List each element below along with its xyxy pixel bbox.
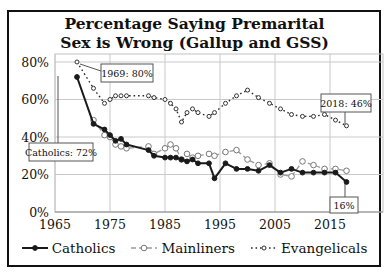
marker-mainliners xyxy=(212,153,218,159)
marker-evangelicals xyxy=(290,113,294,117)
legend: CatholicsMainlinersEvangelicals xyxy=(0,240,389,256)
marker-catholics xyxy=(234,167,239,172)
marker-catholics xyxy=(196,161,201,166)
marker-mainliners xyxy=(234,147,240,153)
marker-catholics xyxy=(91,122,96,127)
marker-mainliners xyxy=(344,168,350,174)
legend-item-evangelicals: Evangelicals xyxy=(251,240,367,256)
annotation-label: Catholics: 72% xyxy=(25,147,97,158)
marker-mainliners xyxy=(256,162,262,168)
marker-evangelicals xyxy=(75,60,79,64)
marker-catholics xyxy=(75,75,80,80)
marker-evangelicals xyxy=(152,96,156,100)
marker-mainliners xyxy=(102,132,108,138)
marker-mainliners xyxy=(311,162,317,168)
marker-catholics xyxy=(256,168,261,173)
marker-catholics xyxy=(212,176,217,181)
marker-mainliners xyxy=(223,149,229,155)
marker-evangelicals xyxy=(119,94,123,98)
marker-catholics xyxy=(267,163,272,168)
marker-catholics xyxy=(207,161,212,166)
marker-catholics xyxy=(102,127,107,132)
annotation-leader-line xyxy=(80,64,101,71)
x-tick-label: 1995 xyxy=(204,217,236,232)
marker-catholics xyxy=(174,155,179,160)
marker-mainliners xyxy=(168,142,174,148)
x-tick-label: 2015 xyxy=(314,217,346,232)
marker-mainliners xyxy=(195,153,201,159)
legend-line-sample-mainliners xyxy=(131,242,157,254)
marker-catholics xyxy=(223,161,228,166)
marker-catholics xyxy=(179,157,184,162)
legend-sample-marker xyxy=(142,245,148,251)
marker-catholics xyxy=(300,170,305,175)
marker-evangelicals xyxy=(180,120,184,124)
legend-line-sample-catholics xyxy=(22,242,48,254)
marker-evangelicals xyxy=(169,101,173,105)
marker-mainliners xyxy=(118,144,124,150)
marker-evangelicals xyxy=(114,94,118,98)
series-line-catholics xyxy=(77,77,347,182)
marker-evangelicals xyxy=(301,114,305,118)
marker-catholics xyxy=(168,155,173,160)
marker-evangelicals xyxy=(213,111,217,115)
x-tick-label: 2005 xyxy=(259,217,291,232)
marker-mainliners xyxy=(289,174,295,180)
legend-item-mainliners: Mainliners xyxy=(131,240,235,256)
marker-evangelicals xyxy=(246,88,250,92)
marker-evangelicals xyxy=(92,86,96,90)
annotation-label: 2018: 46% xyxy=(320,98,372,109)
marker-catholics xyxy=(344,180,349,185)
marker-catholics xyxy=(108,133,113,138)
marker-catholics xyxy=(119,137,124,142)
marker-evangelicals xyxy=(191,107,195,111)
legend-sample-marker xyxy=(32,246,37,251)
marker-catholics xyxy=(278,170,283,175)
legend-line-sample-evangelicals xyxy=(251,242,277,254)
marker-evangelicals xyxy=(147,94,151,98)
marker-catholics xyxy=(163,155,168,160)
marker-mainliners xyxy=(300,159,306,165)
legend-label-catholics: Catholics xyxy=(52,240,116,256)
marker-evangelicals xyxy=(312,114,316,118)
marker-evangelicals xyxy=(103,101,107,105)
annotation-label: 1969: 80% xyxy=(101,68,153,79)
marker-evangelicals xyxy=(163,98,167,102)
marker-evangelicals xyxy=(174,107,178,111)
legend-item-catholics: Catholics xyxy=(22,240,116,256)
annotation-label: 16% xyxy=(333,200,354,211)
marker-mainliners xyxy=(173,146,179,152)
marker-catholics xyxy=(124,142,129,147)
marker-mainliners xyxy=(206,151,212,157)
marker-catholics xyxy=(146,148,151,153)
marker-mainliners xyxy=(184,151,190,157)
marker-evangelicals xyxy=(125,94,129,98)
marker-evangelicals xyxy=(207,114,211,118)
marker-catholics xyxy=(289,167,294,172)
marker-evangelicals xyxy=(224,101,228,105)
legend-label-mainliners: Mainliners xyxy=(161,240,235,256)
y-tick-label: 60% xyxy=(21,92,49,107)
marker-evangelicals xyxy=(257,96,261,100)
marker-evangelicals xyxy=(279,107,283,111)
marker-evangelicals xyxy=(345,124,349,128)
marker-catholics xyxy=(311,170,316,175)
marker-evangelicals xyxy=(196,111,200,115)
marker-evangelicals xyxy=(108,98,112,102)
marker-evangelicals xyxy=(185,111,189,115)
x-tick-label: 1975 xyxy=(94,217,126,232)
y-tick-label: 40% xyxy=(21,130,49,145)
marker-mainliners xyxy=(162,146,168,152)
marker-catholics xyxy=(113,138,118,143)
marker-catholics xyxy=(333,170,338,175)
marker-catholics xyxy=(152,153,157,158)
legend-label-evangelicals: Evangelicals xyxy=(281,240,367,256)
marker-evangelicals xyxy=(235,94,239,98)
marker-catholics xyxy=(190,157,195,162)
x-tick-label: 1965 xyxy=(39,217,71,232)
legend-sample-marker xyxy=(262,246,266,250)
plot-area: 0%20%40%60%80%19651975198519952005201519… xyxy=(0,0,389,277)
y-tick-label: 80% xyxy=(21,55,49,70)
marker-catholics xyxy=(185,159,190,164)
x-tick-label: 1985 xyxy=(149,217,181,232)
